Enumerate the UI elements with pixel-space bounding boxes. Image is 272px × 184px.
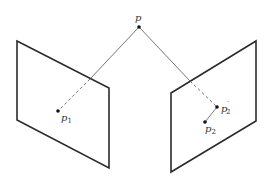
ray-right-dashed xyxy=(190,81,217,107)
label-p: p xyxy=(135,12,142,23)
label-p2-prime: p′2 xyxy=(221,100,230,116)
epipolar-diagram: p p1 p′2 p2 xyxy=(0,0,272,184)
label-p2: p2 xyxy=(205,123,216,136)
ray-right-solid xyxy=(139,27,190,81)
ray-left-dashed xyxy=(58,79,90,111)
right-image-plane xyxy=(171,41,256,172)
point-p xyxy=(137,25,141,29)
point-p2-prime xyxy=(215,105,219,109)
left-image-plane xyxy=(17,41,109,168)
ray-left-solid xyxy=(90,27,139,79)
point-p1 xyxy=(56,109,60,113)
reprojection-error-segment xyxy=(205,107,217,122)
label-p1: p1 xyxy=(61,112,72,125)
